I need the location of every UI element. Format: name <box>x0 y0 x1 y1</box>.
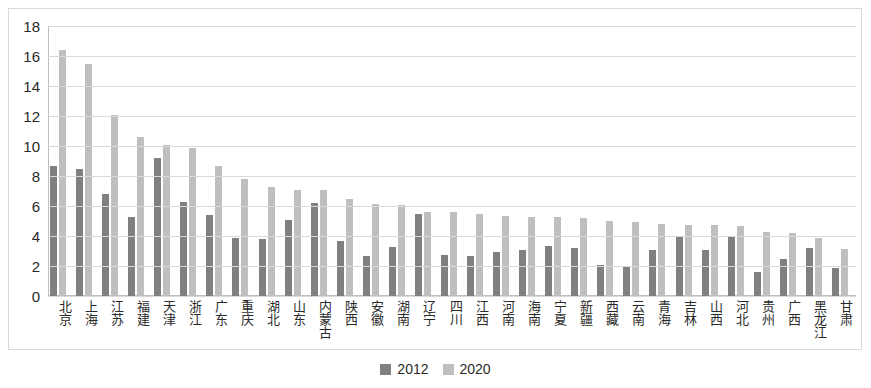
bar-2020 <box>424 212 431 296</box>
x-axis-label: 新疆 <box>572 300 592 326</box>
bar-group <box>152 26 178 296</box>
bar-2012 <box>337 241 344 297</box>
y-axis-tick: 2 <box>32 259 40 274</box>
bar-2020 <box>632 222 639 296</box>
bar-2012 <box>259 239 266 296</box>
x-axis-label: 广东 <box>207 300 227 326</box>
x-axis-label: 北京 <box>51 300 71 326</box>
bar-group <box>674 26 700 296</box>
bar-2020 <box>789 233 796 296</box>
bar-2020 <box>137 137 144 296</box>
bar-2020 <box>163 145 170 297</box>
bar-group <box>48 26 74 296</box>
gridline <box>48 206 856 207</box>
x-axis-label: 重庆 <box>233 300 253 326</box>
bar-2012 <box>311 203 318 296</box>
bar-2012 <box>545 246 552 296</box>
y-axis-tick: 6 <box>32 199 40 214</box>
bar-group <box>439 26 465 296</box>
x-axis-label: 甘肃 <box>833 300 853 326</box>
bar-group <box>569 26 595 296</box>
bar-2020 <box>346 199 353 296</box>
gridline <box>48 236 856 237</box>
bar-group <box>647 26 673 296</box>
bar-2012 <box>806 248 813 296</box>
y-axis-tick: 12 <box>23 109 40 124</box>
bar-group <box>517 26 543 296</box>
bar-2020 <box>815 238 822 296</box>
gridline <box>48 176 856 177</box>
bar-2020 <box>841 249 848 296</box>
bar-group <box>830 26 856 296</box>
y-axis: 181614121086420 <box>8 18 44 304</box>
y-axis-tick: 4 <box>32 229 40 244</box>
x-axis-label: 山东 <box>286 300 306 326</box>
bar-2012 <box>50 166 57 297</box>
x-axis-label: 贵州 <box>755 300 775 326</box>
bar-group <box>387 26 413 296</box>
x-axis-label: 宁夏 <box>546 300 566 326</box>
bar-2020 <box>85 64 92 297</box>
x-axis-label: 四川 <box>442 300 462 326</box>
bar-2020 <box>241 179 248 296</box>
legend-item[interactable]: 2020 <box>443 362 491 376</box>
legend-label: 2020 <box>460 362 491 376</box>
x-axis-label: 上海 <box>77 300 97 326</box>
gridline <box>48 26 856 27</box>
bar-group <box>257 26 283 296</box>
legend-label: 2012 <box>397 362 428 376</box>
bar-2020 <box>528 217 535 297</box>
bar-2020 <box>502 216 509 296</box>
bar-group <box>74 26 100 296</box>
bar-group <box>491 26 517 296</box>
bar-group <box>465 26 491 296</box>
x-axis-label: 江苏 <box>103 300 123 326</box>
x-axis-label: 海南 <box>520 300 540 326</box>
bar-2012 <box>702 250 709 296</box>
bar-group <box>335 26 361 296</box>
bars-layer <box>48 26 856 296</box>
x-axis-label: 广西 <box>781 300 801 326</box>
bar-group <box>126 26 152 296</box>
bar-group <box>230 26 256 296</box>
gridline <box>48 296 856 297</box>
bar-2012 <box>597 265 604 297</box>
bar-2020 <box>268 187 275 297</box>
x-axis-label: 江西 <box>468 300 488 326</box>
bar-2012 <box>415 214 422 297</box>
gridline <box>48 266 856 267</box>
x-axis-label: 湖北 <box>260 300 280 326</box>
bar-2012 <box>363 256 370 297</box>
x-axis-labels: 北京上海江苏福建天津浙江广东重庆湖北山东内蒙古陕西安徽湖南辽宁四川江西河南海南宁… <box>48 300 856 358</box>
x-axis-label: 浙江 <box>181 300 201 326</box>
bar-group <box>204 26 230 296</box>
bar-2012 <box>154 158 161 296</box>
bar-group <box>700 26 726 296</box>
gridline <box>48 86 856 87</box>
bar-2012 <box>389 247 396 297</box>
bar-2020 <box>658 224 665 296</box>
x-axis-label: 青海 <box>651 300 671 326</box>
bar-2012 <box>128 217 135 297</box>
bar-2012 <box>832 268 839 296</box>
legend-item[interactable]: 2012 <box>380 362 428 376</box>
bar-2012 <box>754 272 761 296</box>
bar-chart: 181614121086420 北京上海江苏福建天津浙江广东重庆湖北山东内蒙古陕… <box>0 0 871 388</box>
bar-group <box>778 26 804 296</box>
y-axis-tick: 10 <box>23 139 40 154</box>
y-axis-tick: 8 <box>32 169 40 184</box>
bar-2020 <box>763 232 770 297</box>
bar-2012 <box>285 220 292 297</box>
x-axis-label: 河北 <box>729 300 749 326</box>
bar-group <box>178 26 204 296</box>
x-axis-label: 内蒙古 <box>312 300 332 339</box>
bar-group <box>413 26 439 296</box>
plot-area <box>48 26 856 296</box>
bar-2020 <box>476 214 483 297</box>
y-axis-tick: 18 <box>23 19 40 34</box>
bar-group <box>595 26 621 296</box>
bar-2020 <box>554 217 561 296</box>
bar-group <box>283 26 309 296</box>
x-axis-label: 山西 <box>703 300 723 326</box>
x-axis-label: 吉林 <box>677 300 697 326</box>
